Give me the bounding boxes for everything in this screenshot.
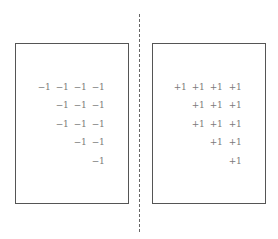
left-charge: −1 [56, 120, 68, 129]
right-charge: +1 [192, 83, 204, 92]
right-charge: +1 [229, 101, 241, 110]
dashed-divider-line [139, 14, 140, 232]
right-charge: +1 [229, 157, 241, 166]
right-charge: +1 [210, 138, 222, 147]
right-charge: +1 [229, 83, 241, 92]
left-charge: −1 [56, 83, 68, 92]
right-charge: +1 [229, 120, 241, 129]
left-charge: −1 [74, 101, 86, 110]
right-charge: +1 [210, 120, 222, 129]
left-charge: −1 [92, 138, 104, 147]
right-charge: +1 [210, 83, 222, 92]
left-plate-negative [15, 43, 129, 204]
left-charge: −1 [92, 120, 104, 129]
right-charge: +1 [210, 101, 222, 110]
left-charge: −1 [74, 120, 86, 129]
left-charge: −1 [38, 83, 50, 92]
right-charge: +1 [192, 120, 204, 129]
right-charge: +1 [229, 138, 241, 147]
left-charge: −1 [74, 83, 86, 92]
right-charge: +1 [174, 83, 186, 92]
left-charge: −1 [92, 83, 104, 92]
left-charge: −1 [74, 138, 86, 147]
right-charge: +1 [192, 101, 204, 110]
left-charge: −1 [56, 101, 68, 110]
left-charge: −1 [92, 101, 104, 110]
left-charge: −1 [92, 157, 104, 166]
